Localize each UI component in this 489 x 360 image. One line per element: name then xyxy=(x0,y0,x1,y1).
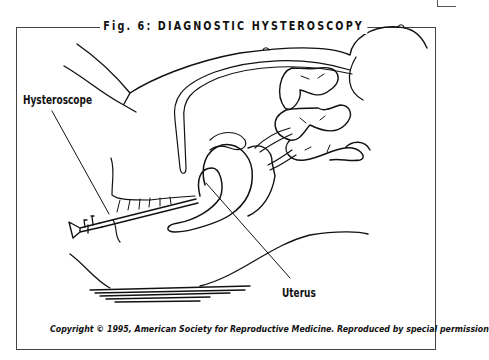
figure-title: Fig. 6: DIAGNOSTIC HYSTEROSCOPY xyxy=(100,18,367,34)
hysteroscope-leader xyxy=(52,111,109,214)
buttock-curve xyxy=(70,254,110,288)
hysteroscope-label: Hysteroscope xyxy=(23,93,92,107)
thigh-curve xyxy=(200,232,368,286)
uterus-leader xyxy=(206,183,290,278)
vaginal-wall xyxy=(111,158,195,200)
abdomen-outline xyxy=(77,27,427,93)
table-surface xyxy=(90,286,250,302)
abdomen-right-curve xyxy=(349,57,363,100)
peritoneum-line xyxy=(174,61,352,174)
hysteroscope-eyepiece xyxy=(69,222,102,238)
copyright-caption: Copyright © 1995, American Society for R… xyxy=(50,323,489,334)
bowel-creases xyxy=(300,74,330,152)
uterus-label: Uterus xyxy=(282,286,316,300)
bowel-loops xyxy=(275,68,370,161)
fallopian-tube xyxy=(210,128,296,170)
